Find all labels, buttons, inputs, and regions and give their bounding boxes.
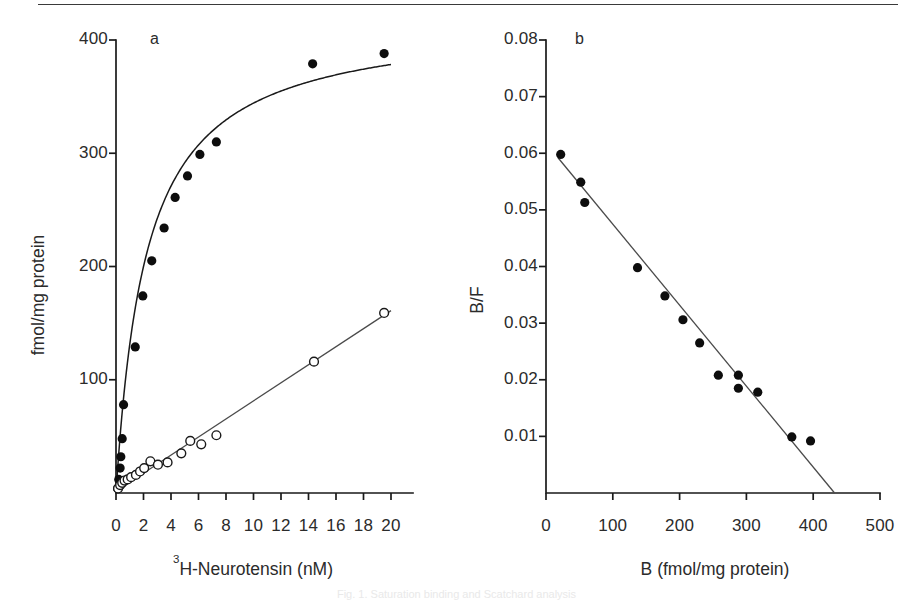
series-total-binding-filled [113,49,389,493]
data-point [186,437,195,446]
x-axis-label: 3H-Neurotensin (nM) [173,553,333,579]
x-tick-label: 400 [799,516,828,535]
figure-canvas: 02468101214161820100200300400afmol/mg pr… [0,0,913,601]
series-scatchard-points [556,150,815,446]
y-tick-label: 400 [79,29,108,48]
data-point [734,371,743,380]
y-tick-label: 300 [79,143,108,162]
x-tick-label: 20 [381,516,400,535]
data-point [753,388,762,397]
x-tick-label: 300 [732,516,761,535]
panel-b-chart: 01002003004005000.010.020.030.040.050.06… [453,0,913,601]
data-point [212,431,221,440]
data-point [116,452,125,461]
panel-letter: b [575,30,584,47]
figure-caption-faint: Fig. 1. Saturation binding and Scatchard… [0,588,913,601]
data-point [576,178,585,187]
panel-b-axes: 01002003004005000.010.020.030.040.050.06… [504,29,894,535]
data-point [734,384,743,393]
panel-letter: a [150,30,159,47]
data-point [308,59,317,68]
data-point [119,400,128,409]
x-tick-label: 100 [598,516,627,535]
data-point [714,371,723,380]
y-tick-label: 100 [79,369,108,388]
data-point [183,171,192,180]
data-point [195,150,204,159]
data-point [380,49,389,58]
x-tick-label: 18 [354,516,373,535]
data-point [197,440,206,449]
y-tick-label: 0.03 [504,313,538,332]
data-point [678,315,687,324]
y-tick-label: 0.01 [504,426,538,445]
y-tick-label: 0.08 [504,29,538,48]
y-axis-label: fmol/mg protein [28,235,48,356]
panel-a-chart: 02468101214161820100200300400afmol/mg pr… [0,0,470,601]
data-point [163,458,172,467]
data-point [633,263,642,272]
y-tick-label: 0.06 [504,143,538,162]
data-point [695,338,704,347]
x-tick-label: 0 [541,516,551,535]
data-point [310,357,319,366]
x-tick-label: 12 [271,516,290,535]
x-tick-label: 4 [166,516,176,535]
y-tick-label: 0.02 [504,369,538,388]
data-point [580,198,589,207]
data-point [160,223,169,232]
panel-a-axes: 02468101214161820100200300400 [79,29,413,535]
data-point [787,432,796,441]
y-axis-label: B/F [467,286,487,313]
x-tick-label: 14 [299,516,318,535]
data-point [556,150,565,159]
data-point [147,256,156,265]
x-tick-label: 16 [326,516,345,535]
data-point [806,436,815,445]
data-point [380,309,389,318]
data-point [118,434,127,443]
x-tick-label: 0 [111,516,121,535]
data-point [131,342,140,351]
fit-line [558,158,835,493]
x-tick-label: 200 [665,516,694,535]
fit-curve [116,64,391,493]
data-point [116,463,125,472]
x-tick-label: 10 [244,516,263,535]
x-tick-label: 8 [221,516,231,535]
x-tick-label: 2 [139,516,149,535]
data-point [171,193,180,202]
data-point [660,291,669,300]
data-point [138,291,147,300]
x-tick-label: 6 [194,516,204,535]
y-tick-label: 0.07 [504,86,538,105]
x-axis-label: B (fmol/mg protein) [641,559,790,579]
y-tick-label: 0.04 [504,256,538,275]
y-tick-label: 200 [79,256,108,275]
series-nonspecific-binding-open [114,309,389,493]
data-point [177,449,186,458]
data-point [154,460,163,469]
x-tick-label: 500 [866,516,895,535]
data-point [212,137,221,146]
y-tick-label: 0.05 [504,199,538,218]
